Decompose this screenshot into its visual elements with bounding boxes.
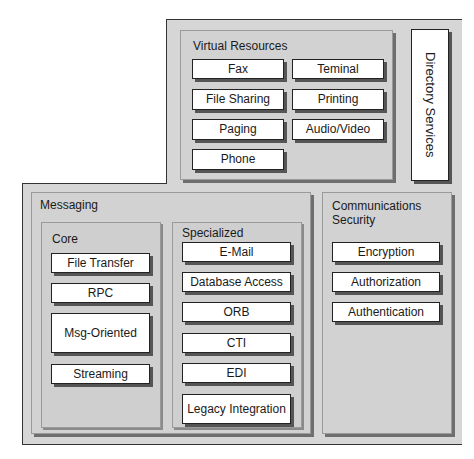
box-file-sharing: File Sharing [192, 89, 284, 110]
communications-security-title: Communications Security [332, 199, 447, 227]
box-edi: EDI [182, 363, 291, 383]
box-orb: ORB [182, 302, 291, 322]
box-fax: Fax [192, 59, 284, 79]
box-authentication: Authentication [332, 302, 440, 322]
messaging-title: Messaging [40, 198, 98, 212]
box-streaming: Streaming [51, 364, 150, 384]
box-authorization: Authorization [332, 272, 440, 292]
directory-services-box: Directory Services [411, 29, 449, 181]
box-paging: Paging [192, 119, 284, 140]
box-cti: CTI [182, 333, 291, 353]
box-database-access: Database Access [182, 272, 291, 292]
box-rpc: RPC [51, 283, 150, 303]
core-title: Core [52, 232, 78, 246]
box-legacy-integration: Legacy Integration [182, 394, 291, 424]
box-e-mail: E-Mail [182, 242, 291, 262]
specialized-title: Specialized [182, 226, 243, 240]
box-audio-video: Audio/Video [292, 119, 384, 140]
box-printing: Printing [292, 89, 384, 110]
box-terminal: Teminal [292, 59, 384, 79]
box-phone: Phone [192, 149, 284, 170]
box-msg-oriented: Msg-Oriented [51, 313, 150, 353]
box-encryption: Encryption [332, 242, 440, 262]
box-file-transfer: File Transfer [51, 253, 150, 273]
virtual-resources-title: Virtual Resources [193, 39, 288, 53]
